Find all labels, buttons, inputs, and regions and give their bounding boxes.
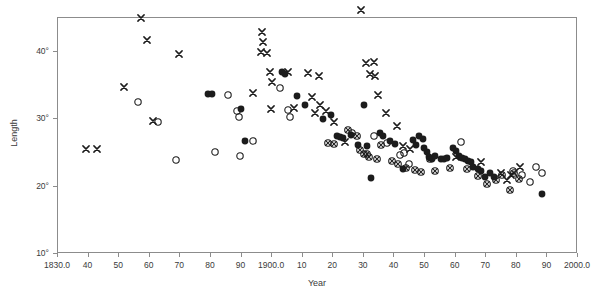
x-axis-tick-label: 10 (297, 260, 306, 270)
data-point-cross (248, 88, 257, 97)
data-point-crossed-circle (473, 172, 482, 181)
data-point-crossed-circle (430, 166, 439, 175)
data-layer: 1830.04050607080901900.01020304050607080… (0, 0, 610, 304)
data-point-cross (267, 105, 276, 114)
x-axis-tick-label: 80 (511, 260, 520, 270)
x-axis-tick (118, 253, 119, 257)
x-axis-tick (302, 253, 303, 257)
data-point-cross (137, 13, 146, 22)
data-point-open-circle (286, 112, 295, 121)
data-point-cross (259, 37, 268, 46)
data-point-filled-circle (537, 190, 546, 199)
x-axis-tick-label: 2000.0 (564, 260, 590, 270)
x-axis-tick-label: 60 (450, 260, 459, 270)
x-axis-tick (455, 253, 456, 257)
data-point-filled-circle (293, 91, 302, 100)
data-point-cross (374, 90, 383, 99)
data-point-cross (143, 35, 152, 44)
data-point-crossed-circle (372, 155, 381, 164)
y-axis-tick-label: 40° (19, 46, 49, 56)
x-axis-tick (516, 253, 517, 257)
data-point-open-circle (537, 168, 546, 177)
y-axis-tick-label: 30° (19, 113, 49, 123)
data-point-cross (381, 108, 390, 117)
data-point-crossed-circle (426, 154, 435, 163)
y-axis-tick (53, 186, 57, 187)
x-axis-tick-label: 40 (389, 260, 398, 270)
x-axis-tick-label: 1900.0 (258, 260, 284, 270)
x-axis-tick-label: 90 (236, 260, 245, 270)
data-point-open-circle (153, 117, 162, 126)
data-point-cross (370, 71, 379, 80)
data-point-crossed-circle (514, 174, 523, 183)
data-point-filled-circle (418, 135, 427, 144)
data-point-open-circle (235, 113, 244, 122)
data-point-filled-circle (280, 69, 289, 78)
data-point-cross (175, 50, 184, 59)
data-point-cross (265, 67, 274, 76)
data-point-cross (392, 122, 401, 131)
data-point-open-circle (134, 97, 143, 106)
x-axis-tick (57, 253, 58, 257)
data-point-open-circle (400, 148, 409, 157)
data-point-filled-circle (366, 174, 375, 183)
data-point-crossed-circle (446, 164, 455, 173)
data-point-filled-circle (326, 111, 335, 120)
x-axis-tick (179, 253, 180, 257)
x-axis-tick-label: 50 (113, 260, 122, 270)
data-point-filled-circle (236, 105, 245, 114)
data-point-cross (120, 83, 129, 92)
x-axis-tick (424, 253, 425, 257)
x-axis-tick (393, 253, 394, 257)
x-axis-tick-label: 70 (481, 260, 490, 270)
data-point-crossed-circle (505, 185, 514, 194)
x-axis-tick (271, 253, 272, 257)
data-point-filled-circle (360, 100, 369, 109)
data-point-crossed-circle (352, 131, 361, 140)
data-point-crossed-circle (462, 165, 471, 174)
data-point-cross (257, 27, 266, 36)
data-point-cross (303, 68, 312, 77)
data-point-open-circle (235, 151, 244, 160)
x-axis-tick (241, 253, 242, 257)
data-point-crossed-circle (329, 139, 338, 148)
data-point-cross (262, 48, 271, 57)
data-point-open-circle (172, 155, 181, 164)
data-point-filled-circle (391, 140, 400, 149)
data-point-filled-circle (300, 101, 309, 110)
y-axis-tick (53, 51, 57, 52)
x-axis-tick (149, 253, 150, 257)
data-point-crossed-circle (401, 164, 410, 173)
data-point-crossed-circle (343, 125, 352, 134)
x-axis-tick-label: 20 (328, 260, 337, 270)
y-axis-tick (53, 118, 57, 119)
x-axis-tick (485, 253, 486, 257)
data-point-filled-circle (241, 137, 250, 146)
data-point-cross (369, 57, 378, 66)
x-axis-tick-label: 90 (542, 260, 551, 270)
data-point-open-circle (210, 147, 219, 156)
data-point-cross (357, 5, 366, 14)
x-axis-tick (546, 253, 547, 257)
data-point-cross (82, 145, 91, 154)
x-axis-tick-label: 30 (358, 260, 367, 270)
x-axis-tick (577, 253, 578, 257)
x-axis-tick (210, 253, 211, 257)
data-point-cross (92, 145, 101, 154)
data-point-crossed-circle (377, 141, 386, 150)
x-axis-tick-label: 50 (419, 260, 428, 270)
data-point-open-circle (525, 177, 534, 186)
data-point-crossed-circle (498, 170, 507, 179)
x-axis-tick-label: 40 (83, 260, 92, 270)
y-axis-tick (53, 253, 57, 254)
data-point-filled-circle (443, 153, 452, 162)
data-point-crossed-circle (482, 179, 491, 188)
x-axis-tick-label: 1830.0 (44, 260, 70, 270)
y-axis-label: Length (9, 103, 19, 163)
x-axis-tick-label: 70 (175, 260, 184, 270)
data-point-filled-circle (208, 89, 217, 98)
y-axis-tick-label: 20° (19, 181, 49, 191)
data-point-open-circle (224, 90, 233, 99)
x-axis-tick-label: 80 (205, 260, 214, 270)
data-point-open-circle (276, 84, 285, 93)
